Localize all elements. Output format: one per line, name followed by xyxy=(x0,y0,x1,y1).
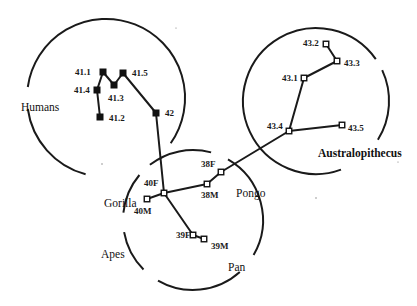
node-label-39M: 39M xyxy=(211,241,229,251)
group-label-apes: Apes xyxy=(101,248,125,261)
node-label-38M: 38M xyxy=(201,190,219,200)
group-circle-arc-apes xyxy=(228,159,263,255)
group-circle-arc-apes xyxy=(158,272,240,290)
node-label-43_3: 43.3 xyxy=(344,58,360,68)
node-marker-43_2 xyxy=(323,41,329,47)
node-label-38F: 38F xyxy=(201,159,216,169)
node-label-43_4: 43.4 xyxy=(267,121,283,131)
node-label-41_4: 41.4 xyxy=(74,85,90,95)
group-label-pongo: Pongo xyxy=(236,187,266,200)
group-circle-humans xyxy=(28,19,185,174)
group-label-humans: Humans xyxy=(21,101,60,113)
node-marker-41_5 xyxy=(120,70,126,76)
node-marker-41_4 xyxy=(94,87,100,93)
node-label-43_1: 43.1 xyxy=(282,73,298,83)
edge-40F-39F xyxy=(164,193,193,235)
node-label-40F: 40F xyxy=(144,178,159,188)
node-marker-42 xyxy=(153,110,159,116)
group-circle-arc-australopithecus xyxy=(378,70,389,140)
group-label-australopithecus: Australopithecus xyxy=(318,147,402,160)
node-label-43_5: 43.5 xyxy=(348,123,364,133)
phylogeny-diagram: 41.141.241.341.441.54243.143.243.343.443… xyxy=(0,0,417,306)
group-circle-arc-humans xyxy=(28,19,185,143)
node-label-41_3: 41.3 xyxy=(108,93,124,103)
group-circle-arc-humans xyxy=(28,109,86,174)
node-label-42: 42 xyxy=(165,108,175,118)
node-marker-43_3 xyxy=(334,58,340,64)
node-label-43_2: 43.2 xyxy=(303,38,319,48)
node-marker-41_1 xyxy=(100,69,106,75)
scan-speck xyxy=(397,161,398,162)
edge-43_1-43_4 xyxy=(289,78,304,131)
node-marker-39M xyxy=(201,236,207,242)
node-marker-43_4 xyxy=(286,128,292,134)
node-marker-40M xyxy=(144,196,150,202)
edge-43_4-43_5 xyxy=(289,125,342,131)
node-marker-38F xyxy=(218,169,224,175)
edge-43_4-38F xyxy=(221,131,289,172)
node-label-41_2: 41.2 xyxy=(109,113,125,123)
node-marker-38M xyxy=(204,181,210,187)
node-marker-40F xyxy=(161,190,167,196)
scan-speck xyxy=(101,163,102,164)
node-label-41_5: 41.5 xyxy=(132,68,148,78)
edge-43_3-43_1 xyxy=(304,61,337,78)
node-marker-41_3 xyxy=(111,82,117,88)
edge-41_4-41_2 xyxy=(97,90,100,117)
group-circle-arc-apes xyxy=(124,232,143,269)
node-marker-41_2 xyxy=(97,114,103,120)
group-label-gorilla: Gorilla xyxy=(104,197,137,209)
node-label-40M: 40M xyxy=(134,206,152,216)
node-marker-43_1 xyxy=(301,75,307,81)
node-marker-39F xyxy=(190,232,196,238)
node-marker-43_5 xyxy=(339,122,345,128)
node-label-39F: 39F xyxy=(176,230,191,240)
scan-speck xyxy=(315,197,316,198)
edge-41_5-42 xyxy=(123,73,156,113)
scan-speck xyxy=(175,27,176,28)
group-label-pan: Pan xyxy=(228,261,246,273)
node-label-41_1: 41.1 xyxy=(75,67,91,77)
